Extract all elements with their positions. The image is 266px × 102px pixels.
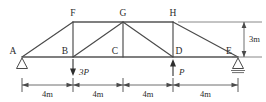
truss-members — [22, 22, 238, 57]
node-label-A: A — [10, 46, 17, 56]
node-label-E: E — [226, 46, 232, 56]
support-A — [17, 58, 28, 69]
node-label-H: H — [170, 8, 177, 18]
load-label-P: P — [178, 67, 185, 77]
dim-label-span-2: 4m — [93, 89, 104, 99]
member-diagonal-G-D — [123, 22, 173, 57]
node-label-C: C — [112, 46, 118, 56]
dim-label-span-1: 4m — [42, 89, 53, 99]
node-label-B: B — [62, 46, 68, 56]
node-label-G: G — [120, 8, 127, 18]
truss-figure: A B C D E F G H 3P P 4m 4m 4m 4m 3m — [0, 0, 266, 102]
support-E — [231, 58, 245, 73]
load-3P-at-B — [70, 59, 76, 76]
load-label-3P: 3P — [78, 67, 90, 77]
node-label-D: D — [176, 46, 183, 56]
node-label-F: F — [70, 8, 75, 18]
dim-label-span-3: 4m — [143, 89, 154, 99]
truss-diagram-stage: A B C D E F G H 3P P 4m 4m 4m 4m 3m — [0, 0, 266, 102]
load-P-at-D — [170, 59, 176, 76]
dim-label-span-4: 4m — [200, 89, 211, 99]
dim-label-height-3m: 3m — [249, 34, 260, 44]
